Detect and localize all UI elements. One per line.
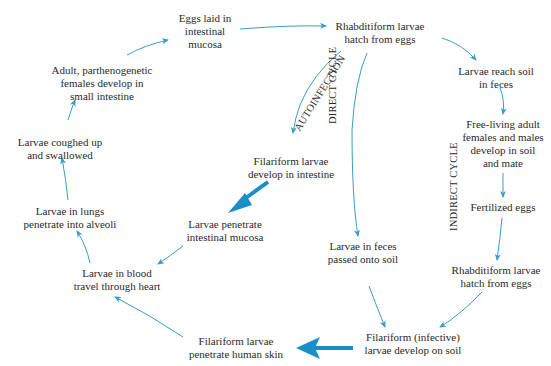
node-line: Rhabditiform larvae (452, 264, 541, 277)
node-line: Fertilized eggs (470, 201, 535, 214)
label-direct-cycle: DIRECT CYCLE (327, 47, 338, 124)
node-larvae-reach-soil: Larvae reach soil in feces (458, 65, 534, 91)
node-line: females develop in (52, 77, 153, 90)
arrow-skin-to-blood (115, 297, 183, 337)
arrow-rhabditiform2-to-filariform (440, 292, 482, 327)
node-line: Filariform (infective) (365, 331, 462, 344)
node-larvae-feces-soil: Larvae in feces passed onto soil (328, 240, 398, 266)
node-line: mucosa (179, 38, 232, 51)
node-filariform-intestine: Filariform larvae develop in intestine (248, 155, 334, 181)
node-rhabditiform-hatch-1: Rhabditiform larvae hatch from eggs (336, 20, 425, 46)
node-filariform-infective: Filariform (infective) larvae develop on… (365, 331, 462, 357)
node-line: Larvae reach soil (458, 65, 534, 78)
node-line: and mate (462, 157, 543, 170)
node-line: in feces (458, 78, 534, 91)
node-line: passed onto soil (328, 253, 398, 266)
arrows-layer (0, 0, 551, 366)
node-larvae-coughed: Larvae coughed up and swallowed (18, 136, 102, 162)
node-line: Larvae in feces (328, 240, 398, 253)
arrow-blood-to-lungs (77, 231, 90, 263)
node-line: Eggs laid in (179, 12, 232, 25)
node-fertilized-eggs: Fertilized eggs (470, 201, 535, 214)
node-line: Larvae coughed up (18, 136, 102, 149)
node-line: Filariform larvae (189, 335, 283, 348)
node-line: penetrate into alveoli (24, 218, 117, 231)
arrow-coughed-to-adult (68, 100, 75, 120)
node-line: hatch from eggs (452, 277, 541, 290)
node-line: females and males (462, 131, 543, 144)
node-line: travel through heart (74, 280, 161, 293)
arrow-feces-to-filariform (369, 286, 385, 327)
node-rhabditiform-hatch-2: Rhabditiform larvae hatch from eggs (452, 264, 541, 290)
node-line: Larvae in lungs (24, 205, 117, 218)
node-free-living-adults: Free-living adult females and males deve… (462, 118, 543, 170)
arrow-lungs-to-coughed (62, 158, 68, 200)
node-filariform-penetrate-skin: Filariform larvae penetrate human skin (189, 335, 283, 361)
node-line: Free-living adult (462, 118, 543, 131)
node-line: intestinal (179, 25, 232, 38)
arrow-direct-cycle (352, 53, 367, 236)
bold-arrow-filariform-to-skin (296, 337, 353, 359)
label-indirect-cycle: INDIRECT CYCLE (448, 142, 459, 231)
node-line: intestinal mucosa (187, 231, 264, 244)
bold-arrow-intestine-to-mucosa (228, 182, 268, 213)
node-adult-females: Adult, parthenogenetic females develop i… (52, 64, 153, 103)
node-line: Filariform larvae (248, 155, 334, 168)
node-line: small intestine (52, 90, 153, 103)
arrow-adult-to-eggs (127, 40, 168, 55)
arrow-eggs-to-rhabditiform (240, 26, 326, 29)
node-line: larvae develop on soil (365, 344, 462, 357)
arrow-rhabditiform-to-soil (442, 38, 476, 60)
node-line: Rhabditiform larvae (336, 20, 425, 33)
arrow-soil-to-freeliving (500, 88, 504, 114)
node-larvae-blood: Larvae in blood travel through heart (74, 267, 161, 293)
arrow-fertilized-to-rhabditiform2 (497, 218, 502, 260)
node-line: Larvae penetrate (187, 218, 264, 231)
node-line: penetrate human skin (189, 348, 283, 361)
node-line: hatch from eggs (336, 33, 425, 46)
arrow-mucosa-to-blood (158, 246, 183, 264)
node-larvae-penetrate-mucosa: Larvae penetrate intestinal mucosa (187, 218, 264, 244)
node-line: and swallowed (18, 149, 102, 162)
node-line: Larvae in blood (74, 267, 161, 280)
node-line: develop in soil (462, 144, 543, 157)
node-line: Adult, parthenogenetic (52, 64, 153, 77)
node-eggs-laid: Eggs laid in intestinal mucosa (179, 12, 232, 51)
node-line: develop in intestine (248, 168, 334, 181)
node-larvae-lungs: Larvae in lungs penetrate into alveoli (24, 205, 117, 231)
